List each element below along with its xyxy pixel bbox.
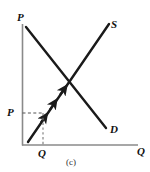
figure-caption: (c) [66,158,76,167]
x-axis-label: Q [137,146,145,157]
supply-curve-label: S [111,19,117,30]
equilibrium-guides [23,113,44,145]
demand-curve-label: D [110,124,118,135]
supply-demand-figure: P Q S D P Q (c) [0,0,150,172]
chart-canvas [0,0,150,172]
quantity-marker-label: Q [38,148,46,159]
supply-curve [28,24,109,142]
y-axis-label: P [17,12,24,23]
price-marker-label: P [7,107,14,118]
supply-adjustment-arrows [41,88,65,123]
demand-curve [26,27,106,128]
supply-arrow-3 [60,88,65,95]
